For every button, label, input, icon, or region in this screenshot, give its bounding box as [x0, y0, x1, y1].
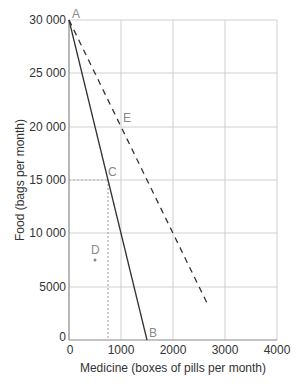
y-tick: 10 000 — [29, 226, 66, 240]
label-e: E — [123, 111, 131, 125]
point-d-marker — [94, 259, 97, 262]
y-tick-labels: 30 000 25 000 20 000 15 000 10 000 5000 … — [29, 13, 66, 344]
x-tick: 2000 — [160, 343, 187, 357]
x-axis-title: Medicine (boxes of pills per month) — [80, 361, 266, 375]
label-d: D — [91, 243, 100, 257]
label-a: A — [72, 7, 80, 21]
x-tick: 1000 — [108, 343, 135, 357]
ppf-dashed-line — [69, 20, 207, 303]
y-tick: 30 000 — [29, 13, 66, 27]
label-b: B — [149, 326, 157, 340]
y-tick: 5000 — [39, 280, 66, 294]
x-tick-labels: 0 1000 2000 3000 4000 — [67, 343, 291, 357]
x-tick: 4000 — [264, 343, 291, 357]
reference-lines — [69, 180, 108, 340]
x-tick: 0 — [67, 343, 74, 357]
label-c: C — [108, 165, 117, 179]
y-tick: 20 000 — [29, 120, 66, 134]
x-tick: 3000 — [212, 343, 239, 357]
ppf-chart: A B C D E 30 000 25 000 20 000 15 000 10… — [0, 0, 301, 384]
grid — [69, 20, 277, 340]
y-axis-title: Food (bags per month) — [13, 119, 27, 241]
y-tick: 0 — [59, 330, 66, 344]
y-tick: 15 000 — [29, 173, 66, 187]
y-tick: 25 000 — [29, 66, 66, 80]
